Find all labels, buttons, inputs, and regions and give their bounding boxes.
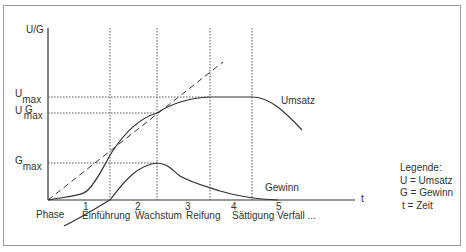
legend-title: Legende: <box>400 162 453 175</box>
phase-4-name: Sättigung <box>232 211 274 221</box>
legend: Legende: U = Umsatz G = Gewinn t = Zeit <box>400 162 453 212</box>
umsatz-curve <box>48 97 302 200</box>
phase-dividers <box>110 28 252 200</box>
y-axis-label: U/G <box>26 25 44 35</box>
phase-3-name: Reifung <box>186 211 220 221</box>
legend-item-t: t = Zeit <box>400 200 453 213</box>
ugmax-label: U Gmax <box>15 106 52 116</box>
umax-label: Umax <box>15 89 41 99</box>
phase-5-name: Verfall ... <box>277 211 316 221</box>
legend-item-u: U = Umsatz <box>400 175 453 188</box>
gewinn-curve-label: Gewinn <box>265 183 299 193</box>
x-axis-label: t <box>361 194 364 204</box>
umsatz-curve-label: Umsatz <box>281 96 315 106</box>
gmax-label: Gmax <box>15 156 42 166</box>
phase-1-name: Einführung <box>82 211 130 221</box>
phase-label: Phase <box>36 210 64 220</box>
legend-item-g: G = Gewinn <box>400 187 453 200</box>
phase-2-name: Wachstum <box>135 211 182 221</box>
tangent-line <box>48 62 223 200</box>
